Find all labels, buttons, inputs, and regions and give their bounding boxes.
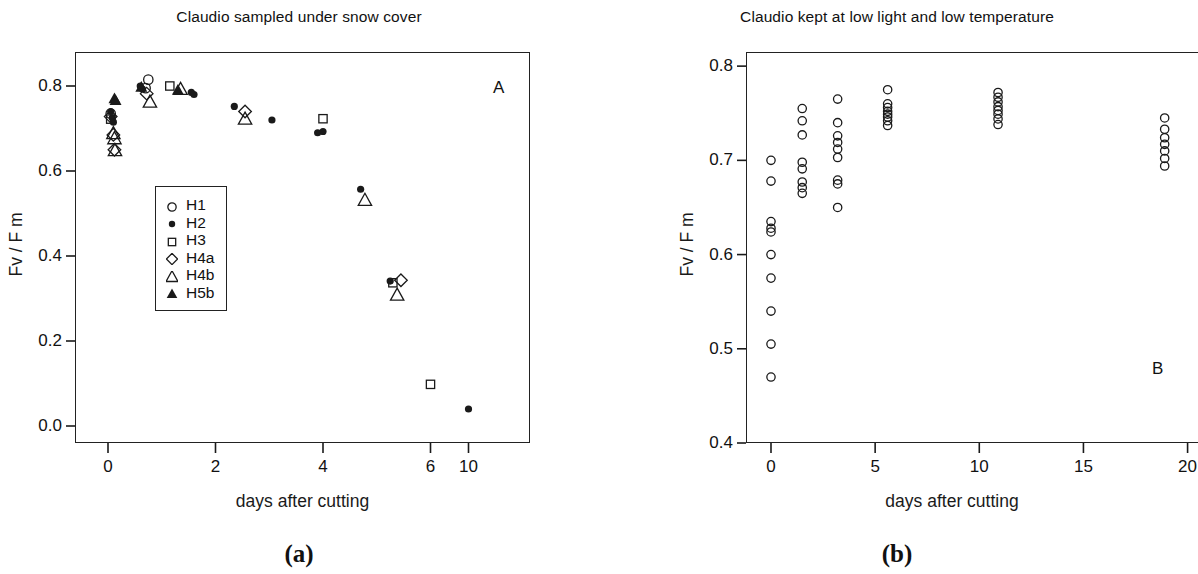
legend-item-label: H5b [186,285,214,301]
panel-a-x-axis-title: days after cutting [236,491,369,512]
panel-a-x-tick-label: 6 [426,457,435,477]
open-diamond-icon [166,251,178,263]
panel-b-y-tick-label: 0.8 [709,56,733,76]
panel-a-y-tick-label: 0.8 [38,76,62,96]
panel-b-y-tick-label: 0.5 [709,339,733,359]
panel-b-y-tick-label: 0.4 [709,433,733,453]
panel-b-y-tick-label: 0.6 [709,245,733,265]
panel-a-x-tick-label: 2 [211,457,220,477]
panel-a-x-tick-label: 0 [103,457,112,477]
legend-item-label: H2 [186,215,206,231]
subcaption-a: (a) [0,540,598,568]
legend-item: H1 [166,196,212,214]
panel-a-y-tick-label: 0.0 [38,416,62,436]
panel-b-y-tick-label: 0.7 [709,150,733,170]
legend-item-label: H3 [186,232,206,248]
legend-item: H4b [166,266,212,284]
panel-b-x-tick-label: 5 [870,457,879,477]
legend-item: H2 [166,214,212,232]
filled-circle-icon [166,216,178,228]
legend-item-label: H4b [186,267,214,283]
panel-b-x-tick-label: 20 [1178,457,1197,477]
panel-b-y-axis-title: Fv / F m [677,216,698,276]
panel-a-y-tick-label: 0.4 [38,246,62,266]
panel-a-legend: H1H2H3H4aH4bH5b [155,186,227,311]
legend-item: H5b [166,284,212,302]
panel-b: Claudio kept at low light and low temper… [598,0,1196,574]
panel-b-x-tick-label: 10 [970,457,989,477]
subcaption-b: (b) [598,540,1196,568]
open-circle-icon [166,199,178,211]
filled-triangle-icon [166,286,178,298]
panel-a-y-axis-title: Fv / F m [6,216,27,276]
panel-a-letter: A [493,78,504,98]
panel-b-x-axis-title: days after cutting [885,491,1018,512]
panel-b-letter: B [1152,359,1163,379]
panel-b-x-tick-label: 15 [1074,457,1093,477]
panel-a-y-tick-label: 0.6 [38,161,62,181]
panel-a-x-tick-label: 4 [318,457,327,477]
panel-a-canvas [0,0,598,574]
panel-b-x-tick-label: 0 [766,457,775,477]
panel-a-y-tick-label: 0.2 [38,331,62,351]
panel-b-canvas [598,0,1196,574]
open-square-icon [166,234,178,246]
open-triangle-icon [166,269,178,281]
panel-a-x-tick-label: 10 [459,457,478,477]
legend-item: H4a [166,249,212,267]
legend-item-label: H4a [186,250,214,266]
legend-item-label: H1 [186,197,206,213]
legend-item: H3 [166,231,212,249]
panel-a: Claudio sampled under snow cover days af… [0,0,598,574]
